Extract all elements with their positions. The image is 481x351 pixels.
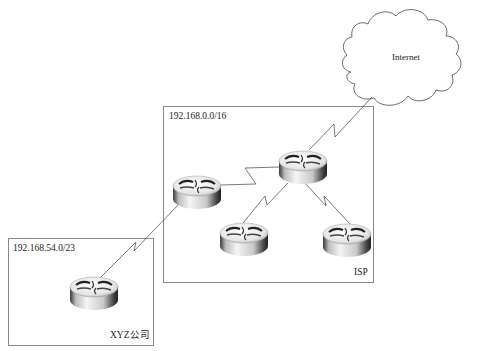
xyz-network-label: 192.168.54.0/23: [13, 244, 75, 254]
isp-network-label: 192.168.0.0/16: [169, 112, 226, 122]
router-icon: [323, 224, 371, 257]
router-icon: [70, 277, 118, 310]
link-internet-core: [309, 97, 372, 150]
router-icon: [220, 223, 268, 256]
link-core-bottom-left: [243, 183, 288, 223]
router-icon: [279, 151, 327, 184]
isp-name-label: ISP: [354, 268, 368, 278]
xyz-name-label: XYZ公司: [110, 331, 150, 341]
link-core-bottom-right: [305, 183, 350, 224]
network-diagram: Internet 192.168.0.0/16 ISP 192.168.54.0…: [0, 0, 481, 351]
internet-label: Internet: [392, 53, 420, 62]
link-edge-core: [220, 167, 279, 185]
link-xyz-edge: [99, 205, 178, 279]
router-icon: [173, 176, 221, 209]
